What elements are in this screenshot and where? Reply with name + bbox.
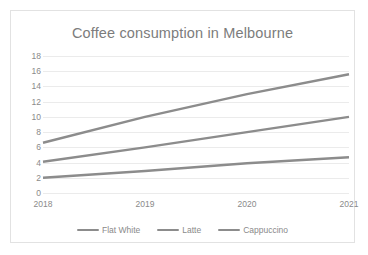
series-line-latte	[43, 117, 349, 162]
legend-swatch-icon	[77, 229, 99, 232]
legend-label: Cappuccino	[243, 225, 288, 235]
y-axis-tick-label: 16	[11, 66, 41, 76]
series-lines	[43, 56, 349, 193]
gridline	[43, 193, 349, 194]
y-axis-tick-label: 2	[11, 173, 41, 183]
legend-swatch-icon	[218, 229, 240, 232]
legend-label: Latte	[182, 225, 201, 235]
series-line-flat-white	[43, 157, 349, 178]
x-axis-tick-label: 2020	[238, 199, 257, 209]
y-axis-tick-label: 4	[11, 158, 41, 168]
legend-item-cappuccino[interactable]: Cappuccino	[218, 225, 288, 235]
legend-item-flat-white[interactable]: Flat White	[77, 225, 140, 235]
x-axis: 2018201920202021	[43, 199, 349, 213]
y-axis: 181614121086420	[11, 56, 41, 193]
legend-item-latte[interactable]: Latte	[157, 225, 201, 235]
chart-card: Coffee consumption in Melbourne 18161412…	[10, 10, 355, 243]
y-axis-tick-label: 0	[11, 188, 41, 198]
y-axis-tick-label: 10	[11, 112, 41, 122]
chart-legend: Flat WhiteLatteCappuccino	[11, 225, 354, 235]
chart-title: Coffee consumption in Melbourne	[11, 25, 354, 41]
y-axis-tick-label: 14	[11, 81, 41, 91]
x-axis-tick-label: 2019	[136, 199, 155, 209]
y-axis-tick-label: 8	[11, 127, 41, 137]
y-axis-tick-label: 12	[11, 97, 41, 107]
legend-label: Flat White	[102, 225, 140, 235]
x-axis-tick-label: 2018	[34, 199, 53, 209]
y-axis-tick-label: 18	[11, 51, 41, 61]
x-axis-tick-label: 2021	[340, 199, 359, 209]
plot-area	[43, 56, 349, 193]
y-axis-tick-label: 6	[11, 142, 41, 152]
legend-swatch-icon	[157, 229, 179, 232]
series-line-cappuccino	[43, 74, 349, 143]
